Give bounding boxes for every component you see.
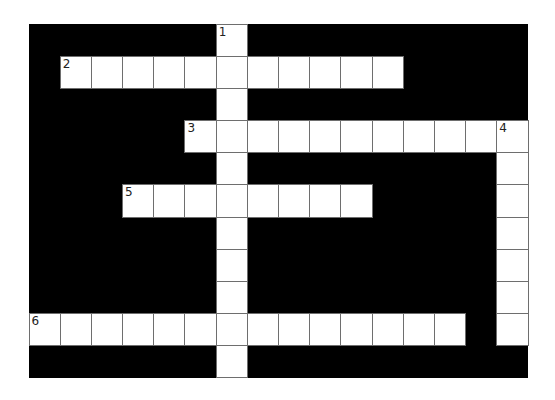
crossword-cell[interactable] bbox=[247, 120, 279, 153]
clue-number: 1 bbox=[219, 26, 227, 38]
crossword-cell[interactable] bbox=[278, 120, 310, 153]
crossword-cell[interactable] bbox=[434, 120, 466, 153]
crossword-cell[interactable] bbox=[340, 56, 372, 89]
crossword-cell[interactable]: 6 bbox=[29, 313, 61, 346]
crossword-cell[interactable]: 5 bbox=[122, 184, 154, 217]
crossword-cell[interactable] bbox=[216, 217, 248, 250]
crossword-cell[interactable] bbox=[434, 313, 466, 346]
crossword-cell[interactable] bbox=[91, 313, 123, 346]
crossword-cell[interactable] bbox=[153, 184, 185, 217]
crossword-cell[interactable] bbox=[91, 56, 123, 89]
crossword-cell[interactable] bbox=[122, 56, 154, 89]
crossword-cell[interactable] bbox=[340, 120, 372, 153]
crossword-cell[interactable] bbox=[60, 313, 92, 346]
crossword-cell[interactable] bbox=[278, 313, 310, 346]
crossword-grid: 123456 bbox=[29, 24, 528, 378]
crossword-cell[interactable] bbox=[340, 184, 372, 217]
crossword-cell[interactable] bbox=[216, 56, 248, 89]
crossword-cell[interactable] bbox=[372, 120, 404, 153]
crossword-cell[interactable]: 3 bbox=[184, 120, 216, 153]
crossword-cell[interactable] bbox=[496, 313, 528, 346]
crossword-cell[interactable] bbox=[216, 313, 248, 346]
crossword-cell[interactable] bbox=[372, 56, 404, 89]
crossword-cell[interactable] bbox=[372, 313, 404, 346]
crossword-cell[interactable] bbox=[216, 249, 248, 282]
clue-number: 2 bbox=[63, 58, 71, 70]
crossword-cell[interactable]: 4 bbox=[496, 120, 528, 153]
clue-number: 4 bbox=[499, 122, 507, 134]
crossword-cell[interactable] bbox=[122, 313, 154, 346]
crossword-cell[interactable] bbox=[247, 313, 279, 346]
crossword-cell[interactable] bbox=[184, 184, 216, 217]
clue-number: 6 bbox=[32, 315, 40, 327]
crossword-cell[interactable] bbox=[403, 313, 435, 346]
crossword-cell[interactable] bbox=[153, 56, 185, 89]
crossword-cell[interactable] bbox=[184, 313, 216, 346]
crossword-cell[interactable]: 1 bbox=[216, 24, 248, 57]
crossword-cell[interactable] bbox=[247, 56, 279, 89]
crossword-cell[interactable] bbox=[216, 345, 248, 378]
crossword-cell[interactable] bbox=[216, 184, 248, 217]
crossword-cell[interactable] bbox=[496, 217, 528, 250]
crossword-cell[interactable] bbox=[496, 152, 528, 185]
crossword-cell[interactable] bbox=[309, 56, 341, 89]
crossword-cell[interactable] bbox=[496, 281, 528, 314]
crossword-cell[interactable] bbox=[216, 88, 248, 121]
crossword-cell[interactable] bbox=[309, 184, 341, 217]
crossword-cell[interactable] bbox=[340, 313, 372, 346]
crossword-cell[interactable] bbox=[216, 281, 248, 314]
crossword-cell[interactable] bbox=[278, 56, 310, 89]
crossword-cell[interactable] bbox=[153, 313, 185, 346]
crossword-cell[interactable] bbox=[247, 184, 279, 217]
crossword-cell[interactable] bbox=[216, 152, 248, 185]
crossword-cell[interactable] bbox=[496, 184, 528, 217]
crossword-cell[interactable] bbox=[309, 313, 341, 346]
crossword-cell[interactable] bbox=[403, 120, 435, 153]
crossword-cell[interactable] bbox=[184, 56, 216, 89]
crossword-cell[interactable] bbox=[496, 249, 528, 282]
crossword-cell[interactable]: 2 bbox=[60, 56, 92, 89]
crossword-cell[interactable] bbox=[309, 120, 341, 153]
crossword-cell[interactable] bbox=[216, 120, 248, 153]
crossword-cell[interactable] bbox=[465, 120, 497, 153]
clue-number: 5 bbox=[125, 186, 133, 198]
crossword-cell[interactable] bbox=[278, 184, 310, 217]
clue-number: 3 bbox=[187, 122, 195, 134]
